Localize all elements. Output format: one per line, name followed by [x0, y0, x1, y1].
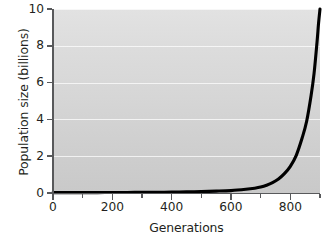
x-axis-tick-label: 400 — [149, 201, 195, 214]
y-axis-tick-label: 4 — [4, 113, 44, 125]
x-axis-title: Generations — [53, 220, 320, 235]
x-axis-tick-label: 600 — [208, 201, 254, 214]
y-axis-tick-label: 2 — [4, 150, 44, 162]
y-axis-tick — [47, 45, 52, 47]
x-axis-tick — [319, 194, 321, 198]
population-growth-chart: Population size (billions) 0246810 02004… — [0, 0, 327, 242]
population-curve-path — [53, 9, 320, 193]
y-axis-tick — [47, 8, 52, 10]
y-axis-tick-label: 8 — [4, 39, 44, 51]
y-axis-tick-label: 0 — [4, 187, 44, 199]
x-axis-tick — [201, 194, 203, 198]
y-axis-tick-label: 6 — [4, 76, 44, 88]
y-axis-tick — [47, 82, 52, 84]
y-axis-tick — [47, 155, 52, 157]
x-axis-spine — [52, 193, 320, 195]
y-axis-tick — [47, 119, 52, 121]
x-axis-tick — [82, 194, 84, 198]
y-axis-tick — [47, 192, 52, 194]
y-axis-title: Population size (billions) — [16, 2, 32, 202]
x-axis-tick-label: 200 — [89, 201, 135, 214]
y-axis-spine — [52, 9, 54, 194]
population-curve — [53, 9, 320, 193]
x-axis-tick-label: 0 — [30, 201, 76, 214]
x-axis-tick — [260, 194, 262, 198]
x-axis-tick-label: 800 — [267, 201, 313, 214]
x-axis-tick — [141, 194, 143, 198]
y-axis-tick-label: 10 — [4, 3, 44, 15]
